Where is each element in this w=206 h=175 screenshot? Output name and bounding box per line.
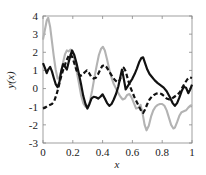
x-tick-label: 0 (40, 146, 46, 158)
y-tick-label: 0 (33, 82, 39, 94)
line-chart: 00.20.40.60.81 -3-2-101234 x y(x) (0, 0, 206, 175)
y-tick-label: 1 (33, 64, 39, 76)
y-axis-title: y(x) (4, 71, 17, 89)
x-tick-label: 0.2 (66, 146, 80, 158)
y-tick-label: -3 (29, 137, 39, 149)
x-tick-label: 0.6 (126, 146, 140, 158)
y-axis-tick-labels: -3-2-101234 (29, 10, 39, 149)
plot-frame (43, 16, 192, 143)
x-axis-tick-labels: 00.20.40.60.81 (40, 146, 195, 158)
y-tick-label: 3 (33, 28, 39, 40)
x-tick-label: 0.8 (155, 146, 169, 158)
x-tick-label: 1 (189, 146, 195, 158)
y-tick-label: 2 (33, 46, 39, 58)
x-tick-label: 0.4 (96, 146, 110, 158)
y-tick-label: -2 (29, 119, 38, 131)
figure-container: 00.20.40.60.81 -3-2-101234 x y(x) (0, 0, 206, 175)
y-tick-label: -1 (29, 101, 38, 113)
y-tick-label: 4 (33, 10, 39, 22)
x-axis-title: x (114, 158, 120, 170)
